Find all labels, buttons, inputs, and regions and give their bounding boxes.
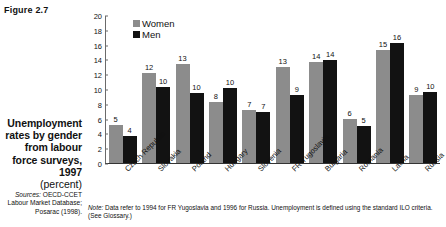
bar-men: 10 xyxy=(190,93,204,163)
bar-women: 5 xyxy=(109,125,123,163)
chart-legend: Women Men xyxy=(133,18,175,40)
bar-value-label: 9 xyxy=(295,85,299,94)
bar-value-label: 10 xyxy=(159,77,167,86)
bar-value-label: 15 xyxy=(379,40,387,49)
bar-value-label: 16 xyxy=(393,33,401,42)
bar-women: 9 xyxy=(409,95,423,163)
y-axis-tick-label: 8 xyxy=(98,100,102,109)
bar-men: 10 xyxy=(156,87,170,163)
figure-sources: Sources: OECD-CCET Labour Market Databas… xyxy=(0,191,82,216)
bar-value-label: 12 xyxy=(145,63,153,72)
y-axis-tick-label: 16 xyxy=(94,41,102,50)
legend-item-men: Men xyxy=(133,29,175,40)
bar-group: 910 xyxy=(407,16,440,163)
bar-value-label: 10 xyxy=(192,83,200,92)
bar-men: 9 xyxy=(290,95,304,163)
bar-value-label: 9 xyxy=(414,85,418,94)
bar-men: 16 xyxy=(390,43,404,163)
y-axis-tick-label: 20 xyxy=(94,12,102,21)
sources-prefix: Sources: xyxy=(15,191,41,198)
figure-label: Figure 2.7 xyxy=(4,5,49,15)
y-axis-tick-label: 14 xyxy=(94,56,102,65)
legend-swatch-women xyxy=(133,20,140,27)
bar-value-label: 5 xyxy=(114,115,118,124)
legend-label-women: Women xyxy=(142,19,175,29)
bar-group: 1516 xyxy=(373,16,406,163)
legend-item-women: Women xyxy=(133,18,175,29)
note-prefix: Note: xyxy=(88,204,103,211)
y-axis-tick-label: 4 xyxy=(98,130,102,139)
bar-value-label: 8 xyxy=(214,92,218,101)
note-text: Data refer to 1994 for FR Yugoslavia and… xyxy=(88,204,432,219)
bar-value-label: 7 xyxy=(247,100,251,109)
legend-label-men: Men xyxy=(142,30,160,40)
bar-group: 77 xyxy=(240,16,273,163)
bar-men: 14 xyxy=(323,60,337,163)
y-axis-tick-label: 0 xyxy=(98,160,102,169)
bar-value-label: 10 xyxy=(426,82,434,91)
bar-men: 10 xyxy=(223,88,237,163)
y-axis-tick-label: 6 xyxy=(98,115,102,124)
bar-value-label: 10 xyxy=(226,78,234,87)
bar-group: 65 xyxy=(340,16,373,163)
y-axis-tick-label: 18 xyxy=(94,26,102,35)
bar-value-label: 14 xyxy=(326,50,334,59)
caption-block: Unemployment rates by gender from labour… xyxy=(0,117,82,216)
y-axis-tick-mark xyxy=(105,164,108,165)
bar-value-label: 4 xyxy=(128,126,132,135)
legend-swatch-men xyxy=(133,31,140,38)
figure-title: Unemployment rates by gender from labour… xyxy=(0,117,82,178)
bar-group: 810 xyxy=(206,16,239,163)
y-axis-tick-label: 12 xyxy=(94,71,102,80)
y-axis-tick-label: 2 xyxy=(98,145,102,154)
figure-note: Note: Data refer to 1994 for FR Yugoslav… xyxy=(88,204,444,219)
bar-group: 139 xyxy=(273,16,306,163)
bar-value-label: 14 xyxy=(312,52,320,61)
chart: 02468101214161820 Women Men 541210131081… xyxy=(88,4,440,200)
bar-group: 1310 xyxy=(173,16,206,163)
y-axis-tick-label: 10 xyxy=(94,86,102,95)
bar-value-label: 5 xyxy=(361,116,365,125)
bar-value-label: 13 xyxy=(279,57,287,66)
bar-value-label: 7 xyxy=(261,102,265,111)
bar-men: 10 xyxy=(423,92,437,163)
figure-unit: (percent) xyxy=(0,178,82,190)
bar-value-label: 13 xyxy=(178,54,186,63)
bar-value-label: 6 xyxy=(347,109,351,118)
